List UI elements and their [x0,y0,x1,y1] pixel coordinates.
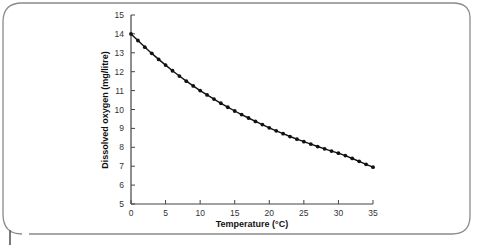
data-point [191,84,195,88]
y-tick-label: 10 [115,105,125,115]
data-point [260,123,264,127]
data-point [309,142,313,146]
y-tick-label: 7 [119,161,124,171]
y-axis-title: Dissolved oxygen (mg/litre) [100,51,110,169]
data-point [323,147,327,151]
y-tick-label: 9 [119,123,124,133]
x-tick-label: 30 [334,208,344,218]
y-tick-label: 11 [115,86,124,96]
x-axis-title: Temperature (°C) [216,219,288,229]
y-tick-label: 12 [115,67,125,77]
data-point [302,140,306,144]
data-point [337,151,341,155]
x-axis: 05101520253035 [129,200,378,218]
data-point [267,126,271,130]
data-point [364,162,368,166]
y-tick-label: 13 [115,48,125,58]
data-point [343,154,347,158]
y-tick-label: 14 [115,29,125,39]
data-point [288,135,292,139]
data-point [184,79,188,83]
x-tick-label: 35 [368,208,378,218]
data-point [143,45,147,49]
data-point [226,105,230,109]
y-tick-label: 5 [119,199,124,209]
data-point [330,149,334,153]
data-point [129,32,133,36]
x-tick-label: 25 [299,208,309,218]
data-point [150,51,154,55]
y-tick-label: 6 [119,180,124,190]
data-point [219,101,223,105]
data-point [274,129,278,133]
data-point [281,132,285,136]
data-point [205,93,209,97]
data-point [164,63,168,67]
data-point [357,159,361,163]
y-tick-label: 15 [115,10,125,20]
data-point [157,58,161,62]
data-point [233,109,237,113]
x-tick-label: 0 [129,208,134,218]
x-tick-label: 20 [265,208,275,218]
data-point [295,137,299,141]
data-point [254,120,258,124]
x-tick-label: 15 [230,208,240,218]
data-point [371,165,375,169]
plot-area [129,32,375,169]
data-point [178,74,182,78]
data-point [240,113,244,117]
data-point [247,116,251,120]
y-axis: 56789101112131415 [115,10,135,209]
x-tick-label: 5 [163,208,168,218]
data-point [316,145,320,149]
data-point [350,157,354,161]
dissolved-oxygen-chart: 56789101112131415 05101520253035 Tempera… [0,0,478,245]
data-point [171,69,175,73]
data-point [198,89,202,93]
x-tick-label: 10 [195,208,205,218]
y-tick-label: 8 [119,142,124,152]
data-point [212,97,216,101]
data-line [131,34,373,167]
data-point [136,39,140,43]
